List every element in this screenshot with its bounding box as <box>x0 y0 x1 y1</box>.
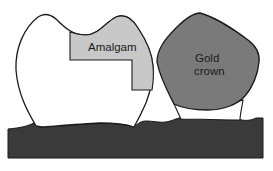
amalgam-label: Amalgam <box>88 41 137 53</box>
gold-crown-label-line2: crown <box>194 65 225 77</box>
dental-restoration-diagram: Amalgam Gold crown <box>0 0 273 171</box>
gold-crown-label-line1: Gold <box>195 52 219 64</box>
